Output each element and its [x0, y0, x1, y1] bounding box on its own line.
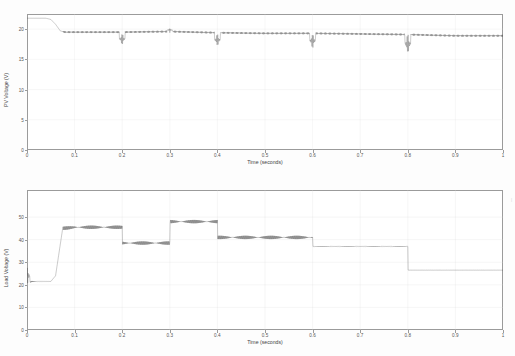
- x-axis-title-top: Time (seconds): [247, 159, 283, 165]
- x-tick-mark: [217, 330, 218, 333]
- y-tick-label: 10: [19, 87, 24, 92]
- x-tick-label: 0.7: [357, 333, 364, 338]
- x-tick-mark: [75, 150, 76, 153]
- x-tick-mark: [360, 330, 361, 333]
- plot-area-top: 05101520 00.10.20.30.40.50.60.70.80.91 T…: [27, 14, 503, 150]
- x-tick-mark: [360, 150, 361, 153]
- plot-svg-bottom: [27, 190, 503, 330]
- x-tick-label: 0.8: [404, 333, 411, 338]
- x-tick-label: 0.3: [166, 333, 173, 338]
- x-tick-mark: [122, 330, 123, 333]
- chart-panel-load-voltage: Load Voltage (V) 01020304050 00.10.20.30…: [0, 180, 515, 356]
- right-edge-mark: |: [511, 197, 512, 202]
- x-tick-label: 0.9: [452, 153, 459, 158]
- x-tick-mark: [408, 150, 409, 153]
- x-tick-mark: [217, 150, 218, 153]
- x-tick-mark: [313, 330, 314, 333]
- y-tick-mark: [25, 90, 28, 91]
- y-axis-title-top: PV Voltage (V): [3, 73, 9, 107]
- x-tick-mark: [27, 150, 28, 153]
- x-tick-mark: [75, 330, 76, 333]
- x-tick-label: 0.5: [262, 153, 269, 158]
- x-tick-label: 0.4: [214, 153, 221, 158]
- x-tick-label: 1: [502, 333, 505, 338]
- x-tick-mark: [503, 150, 504, 153]
- x-tick-mark: [170, 150, 171, 153]
- y-tick-label: 30: [19, 260, 24, 265]
- x-tick-mark: [122, 150, 123, 153]
- x-tick-label: 0.4: [214, 333, 221, 338]
- x-tick-label: 0.1: [71, 333, 78, 338]
- x-tick-label: 0.8: [404, 153, 411, 158]
- x-tick-label: 0.6: [309, 153, 316, 158]
- x-tick-label: 0: [26, 153, 29, 158]
- x-tick-mark: [265, 330, 266, 333]
- x-tick-mark: [313, 150, 314, 153]
- x-tick-label: 0.7: [357, 153, 364, 158]
- x-tick-mark: [455, 330, 456, 333]
- chart-panel-pv-voltage: PV Voltage (V) 05101520 00.10.20.30.40.5…: [0, 4, 515, 176]
- x-tick-label: 0: [26, 333, 29, 338]
- x-tick-mark: [265, 150, 266, 153]
- y-tick-mark: [25, 59, 28, 60]
- y-tick-mark: [25, 307, 28, 308]
- y-tick-label: 15: [19, 57, 24, 62]
- plot-area-bottom: 01020304050 00.10.20.30.40.50.60.70.80.9…: [27, 190, 503, 330]
- x-tick-mark: [27, 330, 28, 333]
- plot-svg-top: [27, 14, 503, 150]
- x-tick-mark: [170, 330, 171, 333]
- x-tick-label: 0.9: [452, 333, 459, 338]
- y-tick-label: 50: [19, 215, 24, 220]
- x-tick-label: 0.6: [309, 333, 316, 338]
- y-tick-mark: [25, 29, 28, 30]
- y-tick-label: 20: [19, 282, 24, 287]
- y-tick-label: 20: [19, 27, 24, 32]
- x-tick-mark: [503, 330, 504, 333]
- x-tick-label: 0.2: [119, 153, 126, 158]
- y-tick-mark: [25, 262, 28, 263]
- x-tick-label: 0.3: [166, 153, 173, 158]
- x-tick-label: 1: [502, 153, 505, 158]
- y-tick-mark: [25, 217, 28, 218]
- x-tick-label: 0.5: [262, 333, 269, 338]
- y-tick-label: 40: [19, 237, 24, 242]
- x-tick-mark: [408, 330, 409, 333]
- figure-canvas: PV Voltage (V) 05101520 00.10.20.30.40.5…: [0, 0, 515, 356]
- y-tick-mark: [25, 120, 28, 121]
- x-tick-mark: [455, 150, 456, 153]
- y-tick-label: 10: [19, 305, 24, 310]
- x-tick-label: 0.1: [71, 153, 78, 158]
- y-axis-title-bottom: Load Voltage (V): [3, 249, 9, 288]
- y-tick-mark: [25, 285, 28, 286]
- y-tick-mark: [25, 240, 28, 241]
- x-axis-title-bottom: Time (seconds): [247, 339, 283, 345]
- x-tick-label: 0.2: [119, 333, 126, 338]
